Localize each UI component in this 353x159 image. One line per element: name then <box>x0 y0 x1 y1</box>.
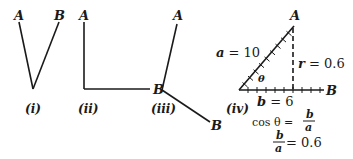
fraction-denominator: a <box>305 121 312 134</box>
point-a-label: A <box>12 8 24 23</box>
hypotenuse-length-label: a = 10 <box>216 45 260 60</box>
fraction-denominator: a <box>275 142 282 155</box>
base-length-label: b = 6 <box>257 94 294 109</box>
point-a-label: A <box>288 8 300 23</box>
figure-caption: (i) <box>25 102 41 116</box>
formula-ratio: b a = 0.6 <box>273 129 322 155</box>
line-a-vertex <box>19 22 33 89</box>
fraction-numerator: b <box>306 108 314 121</box>
point-b-label: B <box>53 8 65 23</box>
line-b-vertex <box>33 22 59 89</box>
figure-ii: A B (ii) <box>77 8 164 116</box>
formula-rhs: = 0.6 <box>286 135 322 150</box>
figure-caption: (ii) <box>78 102 98 116</box>
fraction-numerator: b <box>276 129 284 142</box>
point-a-label: A <box>171 8 183 23</box>
figure-caption: (iii) <box>151 102 176 116</box>
figure-i: A B (i) <box>12 8 65 116</box>
point-b-label: B <box>325 83 337 98</box>
angle-theta-label: θ <box>258 73 265 84</box>
formula-lhs: cos θ = <box>252 116 293 129</box>
line-a-vertex <box>162 24 177 90</box>
point-a-label: A <box>77 8 89 23</box>
figure-iv: A B θ a = 10 r = 0.6 b = 6 (iv) cos θ = … <box>216 8 345 155</box>
diagram-canvas: A B (i) A B (ii) A B (iii) <box>0 0 353 159</box>
point-b-label: B <box>210 118 222 133</box>
figure-caption: (iv) <box>226 102 249 116</box>
vertical-label: r = 0.6 <box>298 56 345 71</box>
figure-iii: A B (iii) <box>151 8 222 133</box>
